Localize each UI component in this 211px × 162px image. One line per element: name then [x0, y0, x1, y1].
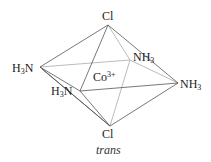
- isomer-caption: trans: [96, 143, 121, 158]
- vertex-back-label: NH3: [133, 51, 154, 65]
- vertex-top-label: Cl: [102, 10, 113, 22]
- center-ion-label: Co3+: [93, 71, 116, 83]
- vertex-left-label: H3N: [12, 62, 33, 76]
- vertex-right-label: NH3: [180, 78, 201, 92]
- vertex-bottom-label: Cl: [102, 128, 113, 140]
- vertex-front-label: H3N: [51, 85, 72, 99]
